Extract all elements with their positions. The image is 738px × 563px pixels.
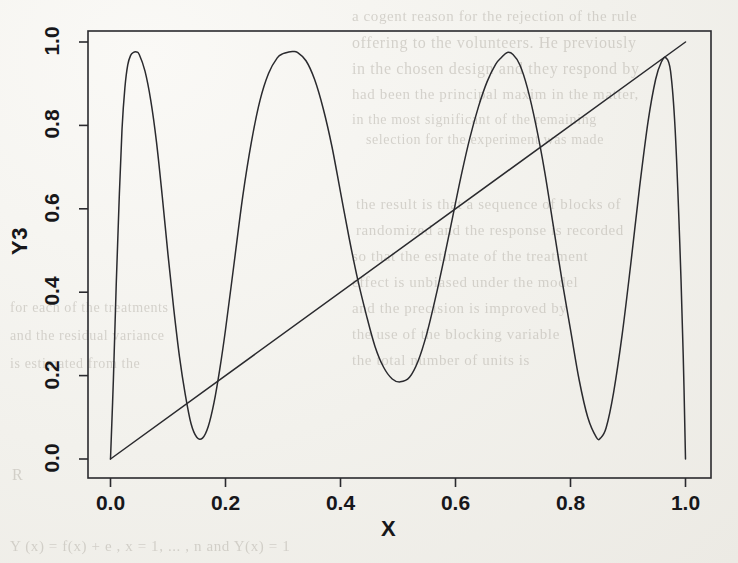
y-tick-label: 0.4 [40, 268, 64, 314]
y-tick-label: 0.8 [40, 101, 64, 147]
x-axis-title: X [381, 516, 396, 542]
x-tick-label: 0.8 [548, 491, 594, 515]
x-tick-label: 0.6 [433, 491, 479, 515]
y-tick-label: 0.0 [40, 435, 64, 481]
y-tick-label: 0.6 [40, 185, 64, 231]
x-axis-ticks [111, 478, 686, 487]
chart-figure [0, 0, 738, 563]
x-tick-label: 0.2 [203, 491, 249, 515]
x-tick-label: 1.0 [663, 491, 709, 515]
scanned-page: a cogent reason for the rejection of the… [0, 0, 738, 563]
y-tick-label: 1.0 [40, 18, 64, 64]
chart-svg [0, 0, 738, 563]
x-tick-label: 0.0 [88, 491, 134, 515]
y-axis-title: Y3 [7, 227, 33, 255]
y-axis-ticks [79, 42, 88, 459]
series-identity-line [111, 42, 686, 459]
y-tick-label: 0.2 [40, 352, 64, 398]
series-oscillating-curve [111, 51, 686, 459]
plot-frame [88, 31, 711, 478]
x-tick-label: 0.4 [318, 491, 364, 515]
